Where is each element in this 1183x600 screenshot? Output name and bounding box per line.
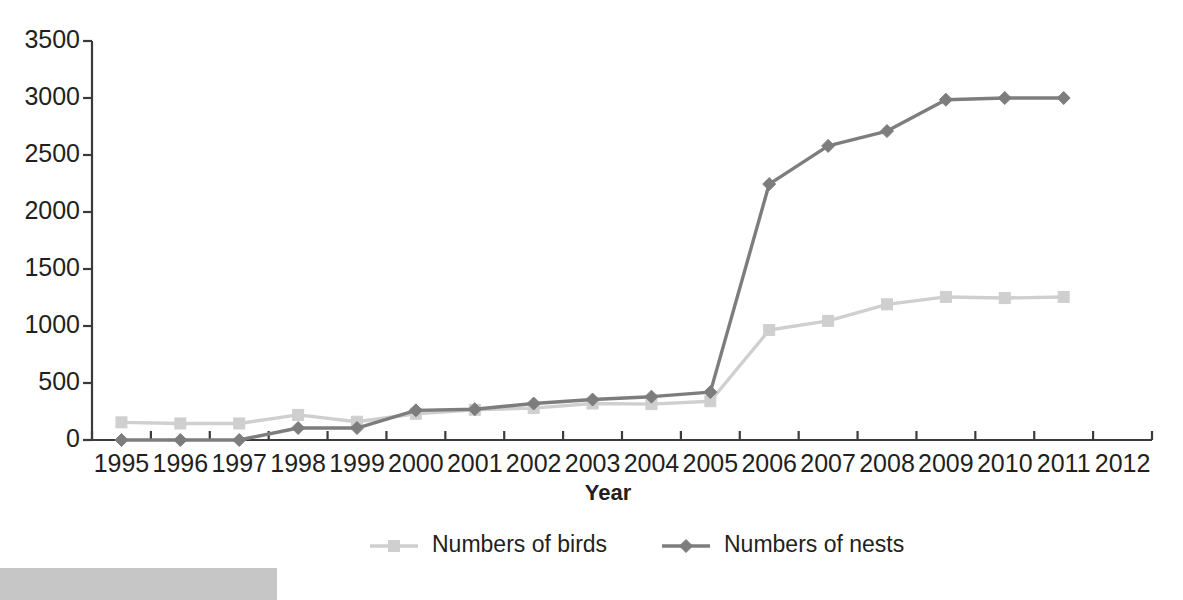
- data-point-marker-diamond: [292, 422, 305, 435]
- data-point-marker-diamond: [881, 125, 894, 138]
- x-tick-label: 2012: [1095, 449, 1151, 477]
- x-tick-label: 2002: [506, 449, 562, 477]
- data-point-marker-square: [175, 418, 186, 429]
- page-edge-artifact: [0, 568, 277, 600]
- legend-label: Numbers of birds: [432, 531, 607, 557]
- x-tick-label: 1996: [153, 449, 209, 477]
- x-tick-label: 2000: [388, 449, 444, 477]
- line-chart: 3500 3000 2500 2000 1500 1000 500 0 1995…: [0, 0, 1183, 600]
- x-tick-label: 2005: [683, 449, 739, 477]
- data-point-marker-diamond: [115, 434, 128, 447]
- data-point-marker-square: [882, 299, 893, 310]
- x-tick-label: 2010: [977, 449, 1033, 477]
- y-tick-label: 3500: [24, 25, 80, 53]
- y-tick-label: 1500: [24, 253, 80, 281]
- y-axis-tick-labels: 3500 3000 2500 2000 1500 1000 500 0: [24, 25, 80, 452]
- x-axis-title: Year: [585, 480, 632, 505]
- legend-item[interactable]: Numbers of nests: [662, 531, 904, 557]
- y-tick-label: 2500: [24, 139, 80, 167]
- data-point-marker-square: [1058, 291, 1069, 302]
- x-tick-label: 1995: [94, 449, 150, 477]
- chart-canvas: 3500 3000 2500 2000 1500 1000 500 0 1995…: [0, 0, 1183, 600]
- chart-legend: Numbers of birdsNumbers of nests: [370, 531, 904, 557]
- legend-label: Numbers of nests: [724, 531, 904, 557]
- y-tick-label: 2000: [24, 196, 80, 224]
- x-tick-label: 2006: [741, 449, 797, 477]
- y-tick-label: 0: [66, 424, 80, 452]
- series-line: [121, 98, 1063, 440]
- x-tick-label: 2001: [447, 449, 503, 477]
- data-point-marker-square: [999, 293, 1010, 304]
- data-point-marker-square: [940, 291, 951, 302]
- data-point-marker-diamond: [174, 434, 187, 447]
- x-tick-label: 2007: [800, 449, 856, 477]
- chart-axes: [83, 41, 1152, 440]
- y-tick-label: 1000: [24, 310, 80, 338]
- data-point-marker-diamond: [1057, 92, 1070, 105]
- data-point-marker-square: [116, 417, 127, 428]
- x-tick-label: 1997: [211, 449, 267, 477]
- x-tick-label: 2004: [624, 449, 680, 477]
- data-point-marker-diamond: [680, 540, 693, 553]
- series-numbers-of-birds: [116, 291, 1069, 429]
- y-tick-label: 500: [38, 367, 80, 395]
- x-tick-label: 2009: [918, 449, 974, 477]
- x-axis-tick-labels: 1995199619971998199920002001200220032004…: [94, 449, 1151, 477]
- x-tick-label: 2011: [1037, 449, 1091, 477]
- data-point-marker-diamond: [939, 93, 952, 106]
- chart-series: [115, 92, 1070, 447]
- data-point-marker-diamond: [998, 92, 1011, 105]
- data-point-marker-square: [764, 324, 775, 335]
- data-point-marker-square: [293, 409, 304, 420]
- legend-item[interactable]: Numbers of birds: [370, 531, 607, 557]
- data-point-marker-square: [389, 541, 400, 552]
- x-tick-label: 1998: [270, 449, 326, 477]
- x-tick-label: 1999: [329, 449, 385, 477]
- x-tick-label: 2008: [859, 449, 915, 477]
- x-tick-label: 2003: [565, 449, 621, 477]
- y-tick-label: 3000: [24, 82, 80, 110]
- data-point-marker-diamond: [233, 434, 246, 447]
- data-point-marker-square: [234, 418, 245, 429]
- series-numbers-of-nests: [115, 92, 1070, 447]
- data-point-marker-square: [823, 315, 834, 326]
